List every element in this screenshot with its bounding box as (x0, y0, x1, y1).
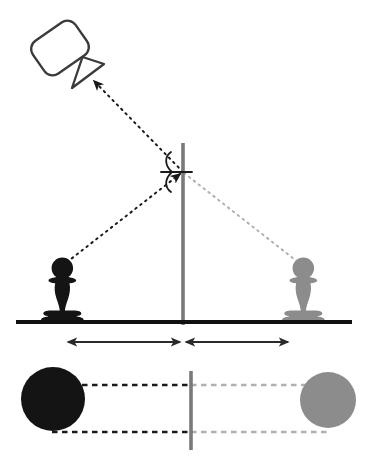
camera-observer-icon[interactable] (27, 17, 104, 88)
incident-ray (94, 81, 183, 172)
virtual-ray (184, 173, 303, 266)
object-pawn (41, 257, 84, 322)
top-view-panel (21, 367, 356, 450)
image-pawn (282, 257, 325, 322)
object-ray (62, 174, 180, 266)
object-disc (21, 367, 85, 431)
image-disc (300, 372, 356, 428)
angle-of-incidence-arc (166, 152, 171, 172)
side-view-panel (16, 17, 352, 342)
mirror-reflection-diagram (0, 0, 372, 473)
figure-root (0, 0, 372, 473)
